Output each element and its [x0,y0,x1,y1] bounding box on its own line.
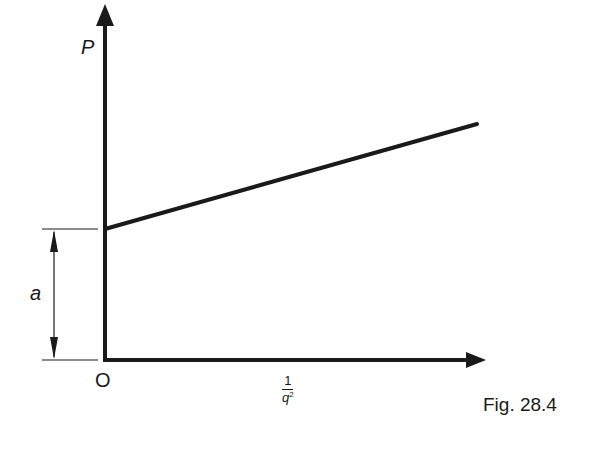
y-axis-arrow-icon [96,4,114,26]
figure-caption: Fig. 28.4 [483,394,557,416]
x-axis-label-numerator: 1 [282,374,293,390]
intercept-label: a [30,282,41,305]
diagram-canvas [0,0,589,449]
x-axis-label-denominator: q2 [282,390,294,404]
origin-label: O [95,369,111,392]
x-axis-arrow-icon [466,352,486,368]
dimension-arrow-up-icon [50,230,58,252]
dimension-arrow-down-icon [50,337,58,359]
x-axis-label: 1 q2 [282,374,294,404]
y-axis-label: P [81,36,94,59]
data-line [105,124,477,229]
